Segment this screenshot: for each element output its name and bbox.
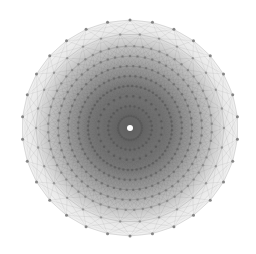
vertex-dot (68, 117, 70, 119)
vertex-dot (169, 116, 171, 118)
vertex-dot (173, 83, 175, 85)
vertex-dot (164, 150, 166, 152)
vertex-dot (106, 21, 109, 24)
vertex-dot (60, 82, 62, 84)
vertex-dot (66, 163, 68, 165)
vertex-dot (108, 134, 110, 136)
vertex-dot (155, 172, 157, 174)
vertex-dot (86, 69, 88, 71)
vertex-dot (98, 120, 100, 122)
vertex-dot (93, 64, 95, 66)
vertex-dot (139, 33, 141, 35)
vertex-dot (164, 104, 166, 106)
vertex-dot (66, 197, 68, 199)
vertex-dot (178, 143, 180, 145)
vertex-dot (113, 155, 115, 157)
vertex-dot (118, 76, 120, 78)
vertex-dot (158, 61, 160, 63)
vertex-dot (96, 153, 98, 155)
vertex-dot (108, 79, 110, 81)
vertex-dot (144, 56, 146, 58)
vertex-dot (48, 199, 51, 202)
vertex-dot (110, 164, 112, 166)
vertex-dot (103, 82, 105, 84)
vertex-dot (160, 120, 162, 122)
vertex-dot (21, 138, 24, 141)
vertex-dot (129, 199, 131, 201)
vertex-dot (113, 77, 115, 79)
vertex-dot (176, 148, 178, 150)
vertex-dot (125, 209, 127, 211)
vertex-dot (140, 167, 142, 169)
vertex-dot (140, 132, 142, 134)
vertex-dot (113, 99, 115, 101)
vertex-dot (209, 199, 212, 202)
vertex-dot (148, 89, 150, 91)
vertex-dot (92, 54, 94, 56)
vertex-dot (67, 124, 69, 126)
vertex-dot (65, 75, 67, 77)
vertex-dot (193, 75, 195, 77)
vertex-dot (133, 138, 135, 140)
vertex-dot (155, 82, 157, 84)
vertex-dot (135, 137, 137, 139)
vertex-dot (95, 75, 97, 77)
vertex-dot (150, 206, 152, 208)
vertex-dot (119, 188, 121, 190)
vertex-dot (165, 64, 167, 66)
vertex-dot (106, 232, 109, 235)
vertex-dot (100, 61, 102, 63)
vertex-dot (53, 182, 55, 184)
vertex-dot (35, 73, 38, 76)
vertex-dot (201, 127, 203, 129)
vertex-dot (192, 39, 195, 42)
vertex-dot (84, 196, 86, 198)
vertex-dot (93, 189, 95, 191)
vertex-dot (197, 149, 199, 151)
vertex-dot (139, 220, 141, 222)
vertex-dot (165, 189, 167, 191)
vertex-dot (125, 159, 127, 161)
vertex-dot (157, 72, 159, 74)
vertex-dot (151, 125, 153, 127)
vertex-dot (132, 65, 134, 67)
vertex-dot (90, 175, 92, 177)
vertex-dot (98, 85, 100, 87)
vertex-dot (166, 54, 168, 56)
vertex-dot (163, 179, 165, 181)
vertex-dot (152, 92, 154, 94)
vertex-dot (205, 97, 207, 99)
vertex-dot (133, 209, 135, 211)
vertex-dot (66, 57, 68, 59)
vertex-dot (116, 208, 118, 210)
vertex-dot (151, 21, 154, 24)
radial-graph-diagram (0, 0, 256, 254)
vertex-dot (118, 167, 120, 169)
vertex-dot (134, 179, 136, 181)
vertex-dot (77, 191, 79, 193)
vertex-dot (85, 171, 87, 173)
vertex-dot (140, 76, 142, 78)
vertex-dot (129, 179, 131, 181)
vertex-dot (65, 39, 68, 42)
vertex-dot (184, 155, 186, 157)
vertex-dot (26, 93, 29, 96)
vertex-dot (159, 157, 161, 159)
vertex-dot (139, 188, 141, 190)
vertex-dot (125, 138, 127, 140)
vertex-dot (176, 208, 178, 210)
vertex-dot (119, 220, 121, 222)
vertex-dot (133, 148, 135, 150)
vertex-dot (119, 66, 121, 68)
vertex-dot (171, 129, 173, 131)
vertex-dot (48, 140, 50, 142)
vertex-dot (178, 111, 180, 113)
vertex-dot (159, 97, 161, 99)
vertex-dot (50, 106, 52, 108)
vertex-dot (177, 166, 179, 168)
vertex-dot (181, 93, 183, 95)
vertex-dot (169, 138, 171, 140)
vertex-dot (136, 198, 138, 200)
vertex-dot (88, 138, 90, 140)
vertex-dot (133, 45, 135, 47)
